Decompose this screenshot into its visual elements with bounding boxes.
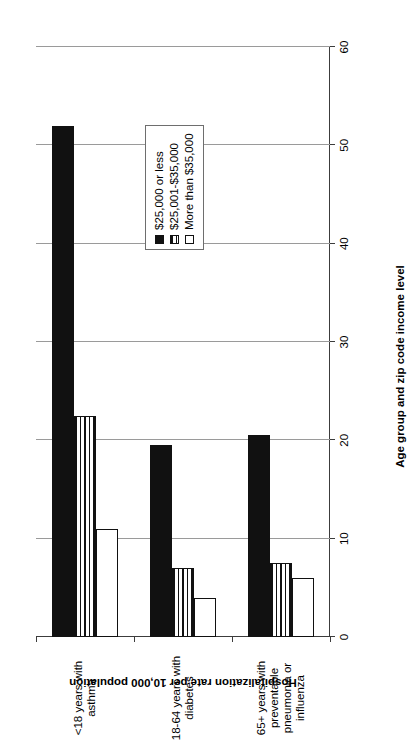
bar <box>96 529 118 637</box>
category-tick <box>330 637 331 642</box>
value-tick-label: 40 <box>338 237 350 250</box>
value-tick <box>330 439 335 440</box>
category-axis-line <box>329 47 330 637</box>
legend-item-label: More than $35,000 <box>183 133 196 230</box>
legend-item: More than $35,000 <box>183 133 196 244</box>
gridline <box>36 341 330 342</box>
bar <box>270 563 292 637</box>
legend: $25,000 or less$25,001-$35,000More than … <box>145 125 204 250</box>
value-tick-label: 10 <box>338 532 350 545</box>
category-tick-label: 18-64 years with diabetes <box>170 638 196 744</box>
value-tick-label: 50 <box>338 139 350 152</box>
category-axis-title: Age group and zip code income level <box>394 0 406 733</box>
category-tick <box>36 637 37 642</box>
legend-rows: $25,000 or less$25,001-$35,000More than … <box>153 133 196 244</box>
value-tick <box>330 538 335 539</box>
bar <box>172 568 194 637</box>
value-tick-label: 20 <box>338 434 350 447</box>
bar <box>52 126 74 637</box>
category-tick-label: <18 years with asthma <box>72 638 98 744</box>
legend-swatch-icon <box>155 235 164 244</box>
legend-swatch-icon <box>170 235 179 244</box>
bar <box>292 578 314 637</box>
bar <box>248 435 270 637</box>
category-tick <box>232 637 233 642</box>
category-tick-label: 65+ years with preventable pneumonia or … <box>255 638 307 744</box>
value-tick <box>330 46 335 47</box>
value-tick <box>330 341 335 342</box>
value-tick-label: 60 <box>338 41 350 54</box>
bar <box>74 416 96 637</box>
legend-item-label: $25,000 or less <box>153 151 166 230</box>
value-tick <box>330 243 335 244</box>
legend-item-label: $25,001-$35,000 <box>168 143 181 230</box>
category-tick <box>134 637 135 642</box>
legend-item: $25,001-$35,000 <box>168 133 181 244</box>
value-tick <box>330 144 335 145</box>
bar <box>194 598 216 637</box>
gridline <box>36 46 330 47</box>
bar <box>150 445 172 637</box>
value-tick-label: 30 <box>338 336 350 349</box>
value-tick-label: 0 <box>338 634 350 640</box>
legend-item: $25,000 or less <box>153 133 166 244</box>
legend-swatch-icon <box>185 235 194 244</box>
